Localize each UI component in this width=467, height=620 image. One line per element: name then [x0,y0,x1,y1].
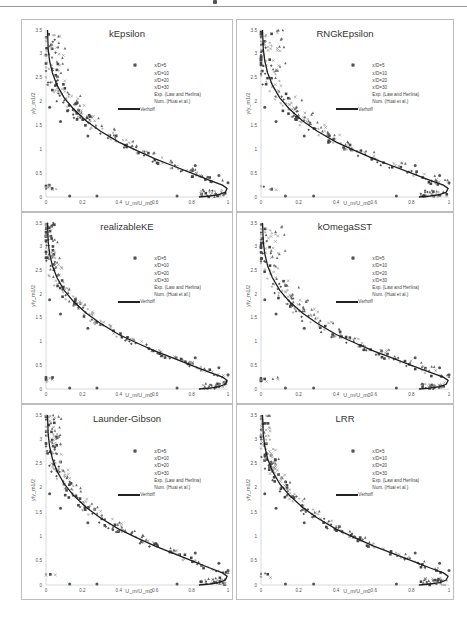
y-tick-label: 0.5 [36,363,43,368]
legend-item: Exp. (Law and Herlina) [132,284,201,291]
legend-item: x/D=20 [132,270,201,277]
legend-label: x/D=5 [372,62,384,69]
legend-label: x/D=20 [372,77,387,84]
line-icon [118,301,140,302]
y-tick-label: 1 [39,339,42,344]
scatter-series [260,223,451,390]
x-tick-label: 0.4 [333,200,340,205]
y-tick-label: 3 [254,437,257,442]
x-axis-label: U_m/U_m0 [125,392,152,398]
x-tick-label: 1 [227,200,230,205]
y-tick-label: 0 [254,195,257,200]
y-tick-label: 1 [39,147,42,152]
line-icon [336,301,358,302]
legend-label: Verhoff [358,106,372,113]
legend-label: x/D=5 [372,448,384,455]
plot-area: 00.511.522.533.500.20.40.60.81U_m/U_m0y/… [237,213,455,405]
legend-item: x/D=30 [132,277,201,284]
chart-panel-realizableke: 00.511.522.533.500.20.40.60.81U_m/U_m0y/… [21,212,233,404]
legend-label: x/D=30 [154,277,169,284]
scatter-series [45,414,230,587]
legend-item: x/D=30 [350,84,419,91]
y-tick-label: 1.5 [251,510,258,515]
x-tick-label: 0 [45,392,48,397]
x-tick-label: 0.8 [188,588,195,593]
legend-label: x/D=5 [154,448,166,455]
x-tick-label: 0.2 [79,200,86,205]
legend-item: Num. (Huai et al.) [132,484,201,491]
y-tick-label: 2 [254,99,257,104]
legend-item: x/D=5 [132,448,201,455]
legend-label: x/D=30 [372,470,387,477]
legend-label: Num. (Huai et al.) [154,484,190,491]
x-tick-label: 0.2 [295,392,302,397]
chart-panel-launder-gibson: 00.511.522.533.500.20.40.60.81U_m/U_m0y/… [21,404,233,600]
x-tick-label: 0.4 [116,588,123,593]
legend-label: x/D=20 [372,270,387,277]
x-tick-label: 0 [260,200,263,205]
legend-label: Verhoff [358,298,372,305]
chart-title: kOmegaSST [237,221,453,232]
legend-label: Verhoff [140,106,154,113]
legend-item: Verhoff [336,106,419,113]
y-tick-label: 1 [254,534,257,539]
x-tick-label: 0.4 [116,392,123,397]
legend-item: Exp. (Law and Herlina) [350,477,419,484]
legend-item: Verhoff [118,298,201,305]
x-tick-label: 1 [227,392,230,397]
scatter-series [260,414,451,586]
x-tick-label: 0.8 [408,588,415,593]
x-tick-label: 0.6 [152,392,159,397]
y-tick-label: 2 [39,292,42,297]
legend-item: Verhoff [118,106,201,113]
x-tick-label: 0.6 [152,588,159,593]
legend-item: Verhoff [336,491,419,498]
y-axis-label: y/y_m1/2 [30,285,36,307]
legend-label: x/D=10 [372,455,387,462]
chart-panel-kepsilon: 00.511.522.533.500.20.40.60.81U_m/U_m0y/… [21,19,233,212]
legend-label: x/D=10 [154,455,169,462]
scatter-series [260,29,451,198]
legend-label: x/D=20 [154,462,169,469]
y-tick-label: 0.5 [251,363,258,368]
y-tick-label: 0.5 [251,171,258,176]
y-tick-label: 0.5 [36,171,43,176]
legend: x/D=5x/D=10x/D=20x/D=30Exp. (Law and Her… [350,255,419,305]
legend-item: x/D=30 [132,84,201,91]
y-tick-label: 2 [254,292,257,297]
legend-label: Exp. (Law and Herlina) [154,477,201,484]
x-tick-label: 0.6 [152,200,159,205]
legend-label: x/D=10 [372,262,387,269]
legend: x/D=5x/D=10x/D=20x/D=30Exp. (Law and Her… [350,62,419,112]
legend-item: x/D=10 [350,262,419,269]
legend-label: x/D=20 [154,270,169,277]
legend-label: Num. (Huai et al.) [372,291,408,298]
legend-item: Num. (Huai et al.) [350,291,419,298]
legend-item: x/D=20 [350,77,419,84]
legend-item: x/D=5 [132,62,201,69]
legend-label: x/D=30 [154,84,169,91]
legend-item: x/D=10 [350,455,419,462]
line-icon [118,108,140,109]
y-axis-label: y/y_m1/2 [245,93,251,115]
chart-title: Launder-Gibson [22,413,232,424]
chart-title: kEpsilon [22,28,232,39]
x-tick-label: 0 [45,588,48,593]
legend-item: x/D=5 [350,255,419,262]
y-tick-label: 2.5 [251,75,258,80]
legend-item: x/D=10 [350,70,419,77]
legend-item: x/D=10 [132,262,201,269]
x-tick-label: 0.8 [188,200,195,205]
legend-label: Num. (Huai et al.) [372,484,408,491]
legend-label: Exp. (Law and Herlina) [154,284,201,291]
y-tick-label: 2 [254,485,257,490]
y-tick-label: 2.5 [36,268,43,273]
y-tick-label: 1 [39,534,42,539]
x-tick-label: 1 [448,200,451,205]
plot-area: 00.511.522.533.500.20.40.60.81U_m/U_m0y/… [22,405,234,601]
x-tick-label: 0.6 [371,588,378,593]
y-tick-label: 1 [254,147,257,152]
y-tick-label: 3 [254,244,257,249]
x-tick-label: 0.2 [295,588,302,593]
legend-item: Exp. (Law and Herlina) [350,91,419,98]
